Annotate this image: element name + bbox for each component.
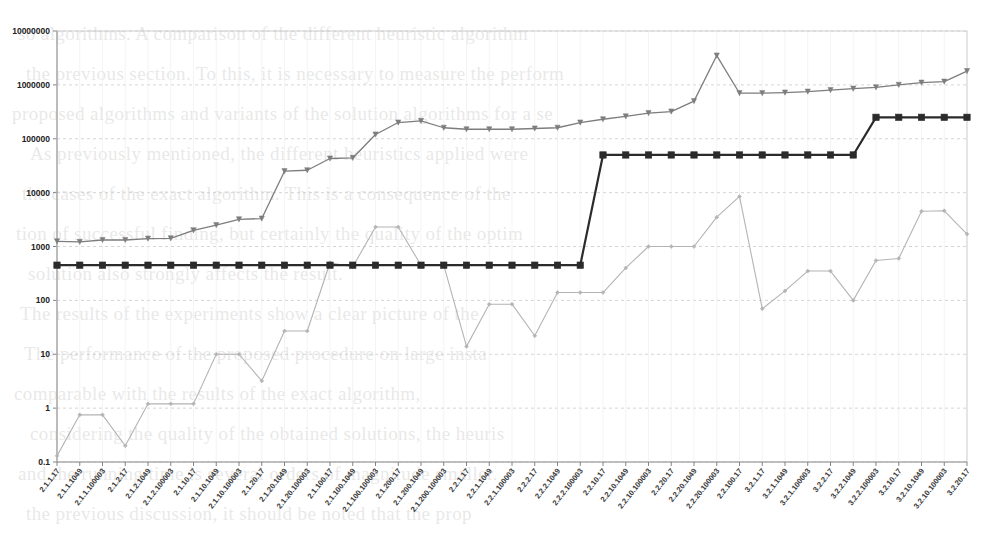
data-point-marker: [509, 262, 515, 268]
data-point-marker: [487, 302, 491, 306]
y-tick-label: 100000: [22, 134, 51, 144]
axis-lines: [53, 31, 967, 466]
log-line-chart: 1000000010000001000001000010001001010.1 …: [0, 0, 1002, 541]
data-point-marker: [213, 262, 219, 268]
y-tick-label: 1: [45, 403, 50, 413]
data-point-marker: [577, 262, 583, 268]
data-point-marker: [850, 152, 856, 158]
data-point-marker: [623, 152, 629, 158]
x-axis-tick-labels: 2.1.1.172.1.1.10492.1.1.1000032.1.2.172.…: [38, 467, 972, 514]
data-point-marker: [554, 262, 560, 268]
data-point-marker: [465, 344, 469, 348]
data-point-marker: [714, 152, 720, 158]
data-point-marker: [941, 114, 947, 120]
data-point-marker: [327, 262, 333, 268]
data-point-marker: [486, 262, 492, 268]
data-point-marker: [600, 152, 606, 158]
data-point-marker: [77, 262, 83, 268]
data-point-marker: [873, 114, 879, 120]
data-point-marker: [736, 152, 742, 158]
y-tick-label: 10: [41, 349, 51, 359]
data-point-marker: [304, 262, 310, 268]
data-point-marker: [441, 262, 447, 268]
data-point-marker: [964, 114, 970, 120]
data-point-marker: [532, 262, 538, 268]
data-point-marker: [578, 291, 582, 295]
data-point-marker: [146, 402, 150, 406]
data-point-marker: [168, 262, 174, 268]
data-point-marker: [669, 245, 673, 249]
data-point-marker: [372, 262, 378, 268]
data-point-marker: [145, 262, 151, 268]
data-point-marker: [964, 69, 969, 74]
data-point-marker: [805, 152, 811, 158]
y-axis-tick-labels: 1000000010000001000001000010001001010.1: [12, 26, 50, 467]
data-point-marker: [668, 152, 674, 158]
data-point-marker: [169, 402, 173, 406]
data-point-marker: [99, 262, 105, 268]
data-point-marker: [395, 262, 401, 268]
data-point-marker: [759, 152, 765, 158]
data-point-marker: [897, 256, 901, 260]
gridlines: [57, 31, 967, 462]
y-tick-label: 0.1: [38, 457, 50, 467]
y-tick-label: 100: [36, 295, 50, 305]
data-point-marker: [896, 114, 902, 120]
data-point-marker: [827, 152, 833, 158]
data-point-marker: [190, 262, 196, 268]
data-point-marker: [305, 329, 309, 333]
data-point-marker: [463, 262, 469, 268]
data-point-marker: [920, 209, 924, 213]
data-point-marker: [350, 262, 356, 268]
data-point-marker: [214, 352, 218, 356]
data-point-marker: [259, 262, 265, 268]
data-point-marker: [645, 152, 651, 158]
data-point-marker: [782, 152, 788, 158]
y-tick-label: 1000000: [17, 80, 50, 90]
data-point-marker: [192, 402, 196, 406]
data-point-marker: [691, 152, 697, 158]
data-point-marker: [122, 262, 128, 268]
data-point-marker: [918, 114, 924, 120]
x-tick-label: 3.2.20.17: [945, 467, 972, 497]
data-point-marker: [54, 262, 60, 268]
data-point-marker: [418, 262, 424, 268]
y-tick-label: 10000: [26, 188, 50, 198]
data-point-marker: [283, 329, 287, 333]
y-tick-label: 10000000: [12, 26, 50, 36]
data-point-marker: [556, 291, 560, 295]
data-point-marker: [691, 98, 696, 103]
data-point-marker: [236, 262, 242, 268]
chart-container: 1000000010000001000001000010001001010.1 …: [0, 0, 1002, 541]
data-point-marker: [281, 262, 287, 268]
y-tick-label: 1000: [31, 242, 50, 252]
